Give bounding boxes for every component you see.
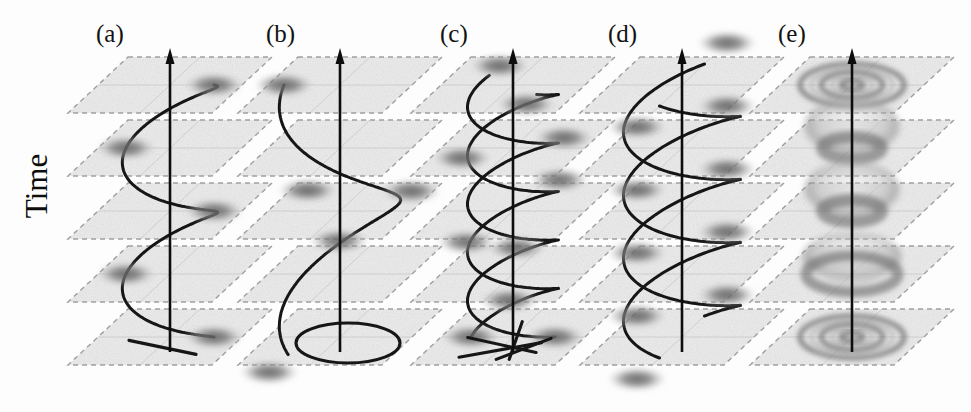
wave-packet-blob (697, 157, 757, 182)
wave-packet-blob (184, 199, 244, 224)
wave-packet-blob (254, 73, 314, 98)
wave-packet-blob (697, 31, 757, 56)
wave-packet-blob (607, 241, 667, 266)
wave-packet-blob (381, 179, 441, 204)
wave-packet-blob (534, 125, 594, 150)
panel-b (238, 48, 442, 385)
figure-panel-grid: Time (a) (b) (c) (d) (e) (0, 0, 971, 412)
time-axis-arrowhead (336, 48, 345, 64)
wave-packet-blob (184, 73, 244, 98)
wave-packet-blob (607, 367, 667, 392)
wave-packet-blob (239, 360, 299, 385)
wave-packet-blob (697, 94, 757, 119)
wave-packet-blob (96, 262, 156, 287)
figure-canvas (0, 0, 971, 412)
wave-packet-blob (487, 235, 547, 260)
panel-d (580, 31, 784, 392)
wave-packet-blob (278, 178, 338, 203)
wave-packet-blob (96, 136, 156, 161)
time-axis-arrowhead (166, 48, 175, 64)
wave-packet-blob (607, 178, 667, 203)
wave-packet-blob (607, 304, 667, 329)
wave-packet-blob (479, 288, 539, 313)
wave-packet-blob (529, 167, 589, 192)
wave-packet-blob (432, 146, 492, 171)
time-axis-arrowhead (848, 48, 857, 64)
wave-packet-blob (470, 53, 530, 78)
panel-a (68, 48, 272, 365)
wave-packet-blob (697, 283, 757, 308)
panel-e (750, 48, 954, 365)
panel-c (411, 48, 615, 365)
wave-packet-blob (184, 325, 244, 350)
time-axis-arrowhead (678, 48, 687, 64)
wave-packet-blob (697, 220, 757, 245)
wave-packet-blob (607, 115, 667, 140)
wave-packet-blob (496, 92, 556, 117)
